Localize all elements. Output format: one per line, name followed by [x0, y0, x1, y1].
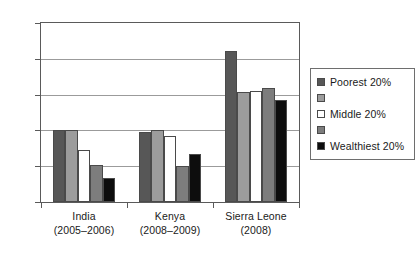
bar: [189, 154, 201, 202]
x-axis-group-label-line2: (2008–2009): [127, 224, 213, 238]
bar-chart-figure: 050100150200250 India(2005–2006)Kenya(20…: [0, 0, 420, 259]
bar: [275, 100, 287, 202]
bar: [164, 136, 176, 202]
legend-swatch-icon: [317, 142, 325, 150]
legend-item-label: Poorest 20%: [330, 76, 391, 88]
legend-swatch-icon: [317, 78, 325, 86]
bar: [262, 88, 274, 202]
x-axis-tick-mark: [213, 203, 214, 208]
x-axis-group-label: Kenya(2008–2009): [127, 210, 213, 237]
bar: [176, 166, 188, 202]
bar: [53, 130, 65, 202]
legend-item: Poorest 20%: [317, 75, 409, 89]
bar-group: [127, 23, 213, 202]
x-axis-group-label: India(2005–2006): [41, 210, 127, 237]
x-axis-group-label-line1: Sierra Leone: [225, 210, 286, 222]
bar: [237, 92, 249, 202]
bar: [90, 165, 102, 202]
legend-item: Wealthiest 20%: [317, 139, 409, 153]
legend-swatch-icon: [317, 126, 325, 134]
bars-layer: [41, 23, 299, 202]
chart-legend: Poorest 20%Middle 20%Wealthiest 20%: [310, 68, 415, 160]
x-axis-tick-mark: [299, 203, 300, 208]
legend-item-label: Wealthiest 20%: [330, 140, 404, 152]
bar: [151, 130, 163, 202]
bar-group: [41, 23, 127, 202]
legend-item: Middle 20%: [317, 107, 409, 121]
bar: [250, 91, 262, 202]
bar: [78, 150, 90, 202]
x-axis-group-label-line1: India: [72, 210, 95, 222]
bar: [139, 132, 151, 202]
legend-swatch-icon: [317, 110, 325, 118]
legend-item: [317, 123, 409, 137]
bar: [225, 51, 237, 202]
legend-item-label: Middle 20%: [330, 108, 386, 120]
legend-item: [317, 91, 409, 105]
x-axis-group-label-line1: Kenya: [155, 210, 185, 222]
x-axis-group-label-line2: (2005–2006): [41, 224, 127, 238]
x-axis-group-label-line2: (2008): [213, 224, 299, 238]
bar-group: [213, 23, 299, 202]
x-axis-tick-mark: [127, 203, 128, 208]
bar: [103, 178, 115, 202]
bar: [65, 130, 77, 202]
x-axis-tick-mark: [41, 203, 42, 208]
legend-swatch-icon: [317, 94, 325, 102]
x-axis-group-label: Sierra Leone(2008): [213, 210, 299, 237]
